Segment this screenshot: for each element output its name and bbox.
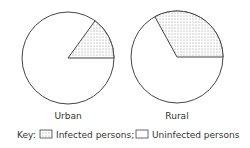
urban-pie [22,12,114,104]
infected-swatch-icon [40,130,52,138]
legend-infected-label: Infected persons; [56,130,134,140]
legend: Key: Infected persons; Uninfected person… [17,130,240,140]
pie-charts-figure: Urban Rural Key: Infected persons; Uninf… [0,0,250,148]
legend-uninfected-label: Uninfected persons [152,130,240,140]
uninfected-swatch-icon [136,130,148,138]
urban-label: Urban [54,111,81,121]
rural-label: Rural [165,111,188,121]
legend-key-label: Key: [17,130,36,140]
rural-pie [131,11,223,103]
